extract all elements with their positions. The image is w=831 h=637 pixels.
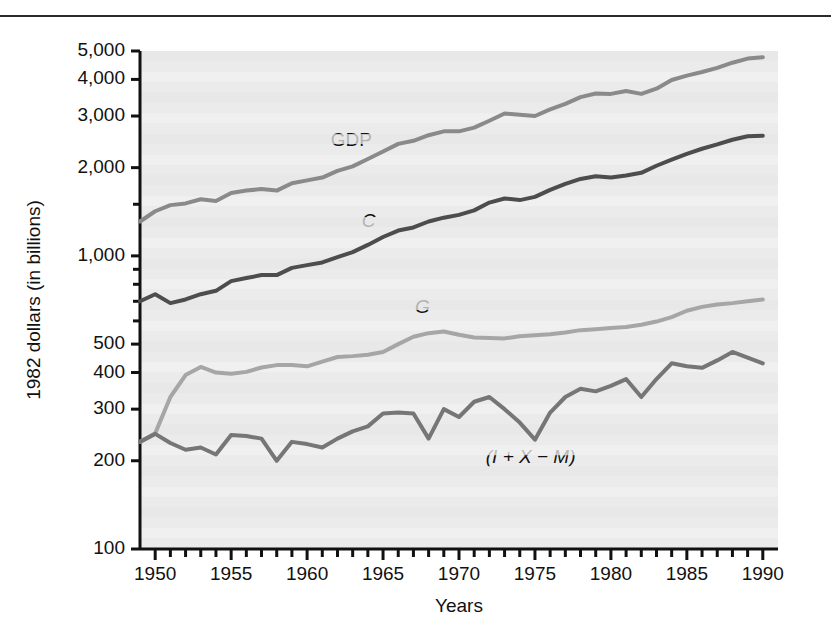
- chart-figure: 1982 dollars (in billions) Years 5,0004,…: [0, 17, 831, 617]
- chart-svg: [0, 17, 831, 617]
- figure-root: 1982 dollars (in billions) Years 5,0004,…: [0, 0, 831, 637]
